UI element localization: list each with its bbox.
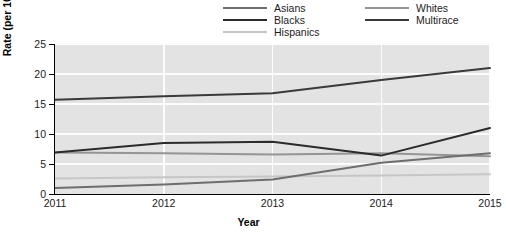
x-tick-label: 2012 xyxy=(134,197,194,209)
series-line-asians xyxy=(55,153,490,188)
series-layer xyxy=(55,44,490,194)
x-tick-label: 2013 xyxy=(243,197,303,209)
legend-item-multirace[interactable]: Multirace xyxy=(365,14,493,26)
x-tick-label: 2015 xyxy=(460,197,506,209)
legend-swatch-asians xyxy=(223,7,267,10)
series-line-blacks xyxy=(55,128,490,156)
x-axis-title: Year xyxy=(0,216,497,228)
y-tick-mark xyxy=(49,74,54,75)
y-tick-mark xyxy=(49,194,54,195)
legend-label-blacks: Blacks xyxy=(274,14,305,26)
legend-label-asians: Asians xyxy=(274,2,306,14)
chart-legend: Asians Whites Blacks Multirace Hispanics xyxy=(223,2,493,38)
y-tick-mark xyxy=(49,44,54,45)
x-tick-label: 2011 xyxy=(25,197,85,209)
legend-item-hispanics[interactable]: Hispanics xyxy=(223,26,351,38)
legend-item-whites[interactable]: Whites xyxy=(365,2,493,14)
y-tick-label: 25 xyxy=(0,38,46,50)
plot-area xyxy=(55,44,490,194)
legend-swatch-blacks xyxy=(223,19,267,22)
x-tick-label: 2014 xyxy=(351,197,411,209)
y-tick-label: 15 xyxy=(0,98,46,110)
legend-item-empty xyxy=(365,26,493,38)
y-tick-label: 20 xyxy=(0,68,46,80)
series-line-hispanics xyxy=(55,174,490,178)
y-tick-mark xyxy=(49,104,54,105)
legend-label-multirace: Multirace xyxy=(416,14,459,26)
legend-item-blacks[interactable]: Blacks xyxy=(223,14,351,26)
legend-swatch-multirace xyxy=(365,19,409,22)
legend-swatch-hispanics xyxy=(223,31,267,34)
y-tick-label: 5 xyxy=(0,158,46,170)
series-line-whites xyxy=(55,153,490,157)
legend-label-hispanics: Hispanics xyxy=(274,26,320,38)
series-line-multirace xyxy=(55,68,490,100)
y-tick-mark xyxy=(49,164,54,165)
legend-swatch-whites xyxy=(365,7,409,10)
y-tick-label: 10 xyxy=(0,128,46,140)
y-tick-mark xyxy=(49,134,54,135)
legend-item-asians[interactable]: Asians xyxy=(223,2,351,14)
y-axis-line xyxy=(54,44,55,194)
x-axis-line xyxy=(54,194,490,195)
legend-label-whites: Whites xyxy=(416,2,448,14)
